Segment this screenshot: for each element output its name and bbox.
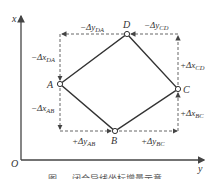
station-A xyxy=(57,81,62,86)
figure-caption: 图 — 闭合导线坐标增量示意 xyxy=(48,173,162,179)
traverse-diagram: x y O A B C D −ΔyDA −ΔyCD −ΔxDA +ΔxCD −Δ… xyxy=(0,0,218,179)
label-dx-CD: +ΔxCD xyxy=(180,60,205,71)
label-dy-BC: +ΔyBC xyxy=(141,136,165,147)
label-A: A xyxy=(46,79,54,90)
x-axis-label: x xyxy=(11,13,17,24)
label-C: C xyxy=(183,84,190,95)
label-dx-DA: −ΔxDA xyxy=(31,52,55,63)
label-D: D xyxy=(122,19,131,30)
origin-label: O xyxy=(11,158,18,169)
station-B xyxy=(112,128,117,133)
station-C xyxy=(175,86,180,91)
label-dy-AB: +ΔyAB xyxy=(72,136,95,147)
traverse-polygon xyxy=(60,34,178,131)
y-axis-label: y xyxy=(197,163,203,174)
station-D xyxy=(124,31,129,36)
label-dx-AB: −ΔxAB xyxy=(31,103,54,114)
label-dy-CD: −ΔyCD xyxy=(144,20,169,31)
label-dx-BC: +ΔxBC xyxy=(180,108,204,119)
label-dy-DA: −ΔyDA xyxy=(80,22,104,33)
label-B: B xyxy=(111,135,117,146)
